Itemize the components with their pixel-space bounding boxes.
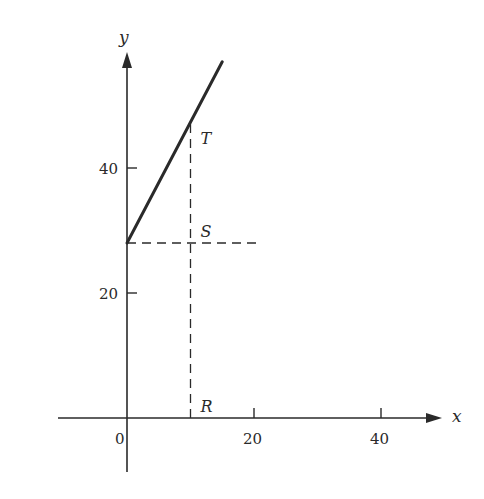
tick-marks: 020402040 <box>99 160 389 448</box>
chart-stage: 020402040 x y TSR <box>0 0 484 499</box>
x-axis-label: x <box>452 406 462 426</box>
x-axis-arrow-icon <box>426 413 442 423</box>
x-tick-label: 0 <box>115 430 125 448</box>
x-tick-label: 20 <box>243 430 262 448</box>
y-axis-label: y <box>118 27 129 47</box>
data-line <box>127 62 222 243</box>
y-tick-label: 40 <box>99 160 118 178</box>
labels: x y TSR <box>118 27 462 426</box>
point-label-t: T <box>201 129 213 148</box>
point-label-r: R <box>200 397 213 416</box>
axes <box>58 52 442 472</box>
y-tick-label: 20 <box>99 285 118 303</box>
x-tick-label: 40 <box>370 430 389 448</box>
line-chart: 020402040 x y TSR <box>0 0 484 499</box>
point-label-s: S <box>201 222 212 241</box>
dashed-guides <box>127 124 260 418</box>
line <box>127 62 222 243</box>
y-axis-arrow-icon <box>122 52 132 68</box>
